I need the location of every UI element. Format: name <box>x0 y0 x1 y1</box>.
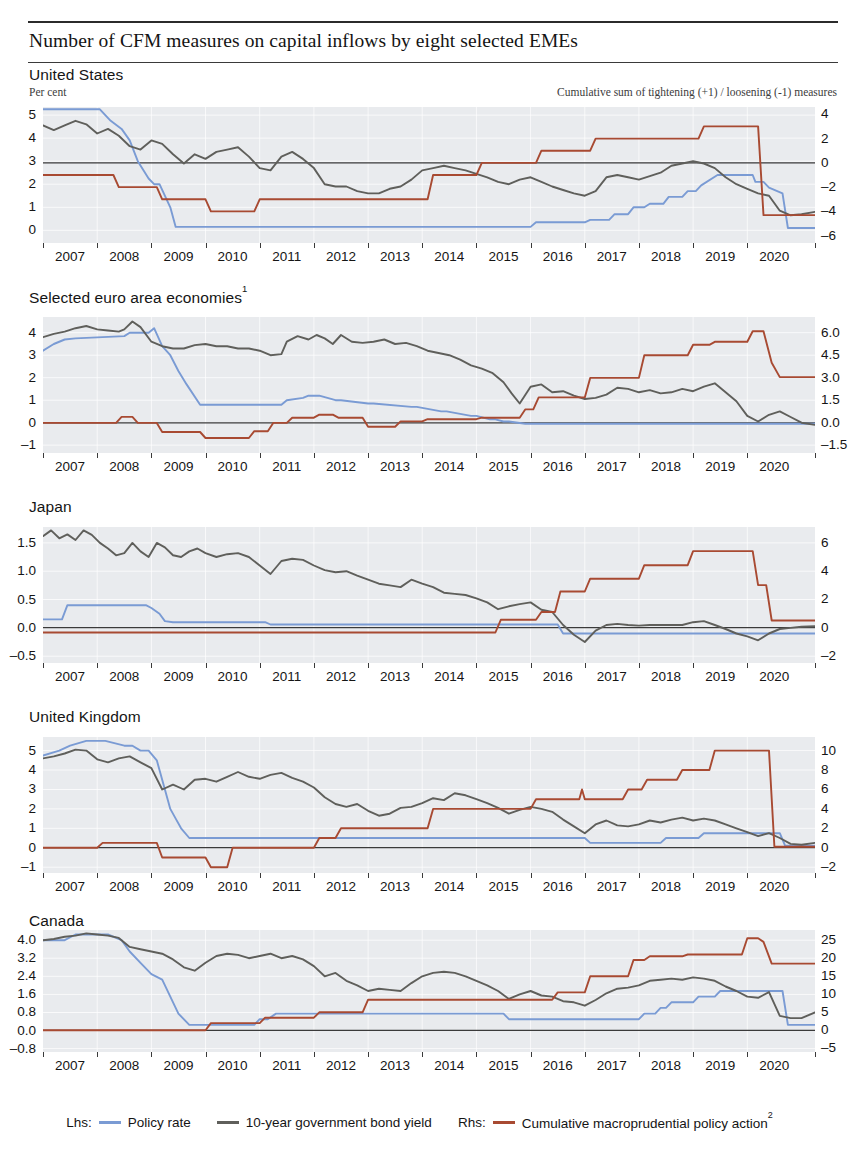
x-axis-tick-label: 2011 <box>264 880 310 894</box>
legend-swatch-policy-rate <box>99 1121 121 1124</box>
y-axis-left-tick-label: 1 <box>2 821 36 835</box>
x-axis-tick-label: 2020 <box>751 250 797 264</box>
x-axis-tick <box>585 453 586 458</box>
x-axis-tick <box>531 873 532 878</box>
x-axis-tick-label: 2015 <box>480 880 526 894</box>
y-axis-right-tick-label: 8 <box>821 763 859 777</box>
x-axis-tick-label: 2007 <box>47 460 93 474</box>
y-axis-right-tick-label: 6 <box>821 782 859 796</box>
y-axis-left-tick-label: 4 <box>2 131 36 145</box>
y-axis-right-tick-label: 6 <box>821 536 859 550</box>
x-axis-tick-label: 2019 <box>697 1059 743 1073</box>
x-axis-tick <box>531 1052 532 1057</box>
y-axis-left-tick-label: 2 <box>2 177 36 191</box>
x-axis-tick-label: 2017 <box>589 250 635 264</box>
x-axis-tick-label: 2014 <box>426 1059 472 1073</box>
x-axis-tick-label: 2020 <box>751 1059 797 1073</box>
y-axis-right-tick-label: 4.5 <box>821 348 859 362</box>
x-axis-tick <box>206 1052 207 1057</box>
x-axis-tick <box>206 873 207 878</box>
y-axis-left-tick-label: 1.0 <box>2 564 36 578</box>
x-axis-tick-label: 2014 <box>426 250 472 264</box>
x-axis-tick-label: 2012 <box>318 880 364 894</box>
y-axis-left-tick-label: 3 <box>2 782 36 796</box>
y-axis-left-tick-label: –1 <box>2 860 36 874</box>
figure-page: Number of CFM measures on capital inflow… <box>0 0 865 1169</box>
panel-title-text: Japan <box>29 498 72 515</box>
x-axis-tick <box>585 873 586 878</box>
plot-svg <box>43 930 815 1052</box>
x-axis-tick <box>151 453 152 458</box>
legend-lhs-label: Lhs: <box>66 1115 92 1130</box>
x-axis-tick-label: 2012 <box>318 670 364 684</box>
y-axis-left-tick-label: 0 <box>2 223 36 237</box>
x-axis-tick-label: 2020 <box>751 880 797 894</box>
y-axis-left-tick-label: 3 <box>2 348 36 362</box>
x-axis-tick-label: 2019 <box>697 670 743 684</box>
x-axis-tick <box>368 663 369 668</box>
panel-title-3: United Kingdom <box>29 708 141 726</box>
x-axis-tick-label: 2007 <box>47 670 93 684</box>
y-axis-right-tick-label: 2 <box>821 132 859 146</box>
x-axis-tick <box>206 243 207 248</box>
y-axis-right-tick-label: 0.0 <box>821 416 859 430</box>
x-axis-tick-label: 2009 <box>155 670 201 684</box>
x-axis-tick-label: 2008 <box>101 460 147 474</box>
y-axis-left-tick-label: –0.8 <box>2 1042 36 1056</box>
plot-svg <box>43 317 815 453</box>
x-axis-tick <box>151 1052 152 1057</box>
y-axis-right-tick-label: 2 <box>821 821 859 835</box>
panel-title-2: Japan <box>29 498 72 516</box>
x-axis-tick-label: 2013 <box>372 880 418 894</box>
panel-title-0: United States <box>29 66 123 84</box>
x-axis-tick <box>747 453 748 458</box>
x-axis-tick-label: 2007 <box>47 1059 93 1073</box>
x-axis-tick <box>97 873 98 878</box>
y-axis-right-tick-label: –2 <box>821 649 859 663</box>
x-axis-tick <box>693 243 694 248</box>
x-axis-tick-label: 2016 <box>535 250 581 264</box>
y-axis-left-tick-label: 1 <box>2 393 36 407</box>
series-line <box>43 126 815 215</box>
y-axis-right-tick-label: 4 <box>821 802 859 816</box>
x-axis-tick-label: 2015 <box>480 1059 526 1073</box>
plot-area-3 <box>43 737 815 873</box>
x-axis-tick-label: 2013 <box>372 670 418 684</box>
series-line <box>43 935 815 1025</box>
x-axis-tick <box>422 663 423 668</box>
chart-legend: Lhs: Policy rate 10-year government bond… <box>0 1114 865 1131</box>
y-axis-right-tick-label: 10 <box>821 987 859 1001</box>
x-axis-tick <box>314 243 315 248</box>
x-axis-tick <box>476 1052 477 1057</box>
x-axis-tick-label: 2012 <box>318 250 364 264</box>
x-axis-tick-label: 2017 <box>589 880 635 894</box>
y-axis-left-tick-label: 1.6 <box>2 987 36 1001</box>
right-axis-unit: Cumulative sum of tightening (+1) / loos… <box>557 86 837 98</box>
y-axis-left-tick-label: 4.0 <box>2 933 36 947</box>
x-axis-tick <box>43 873 44 878</box>
x-axis-tick <box>422 1052 423 1057</box>
y-axis-left-tick-label: 5 <box>2 744 36 758</box>
legend-text-macroprudential-main: Cumulative macroprudential policy action <box>522 1116 768 1131</box>
series-line <box>43 328 815 424</box>
x-axis-tick-label: 2011 <box>264 1059 310 1073</box>
y-axis-left-tick-label: 2 <box>2 802 36 816</box>
x-axis-tick-label: 2016 <box>535 670 581 684</box>
x-axis-tick <box>260 243 261 248</box>
x-axis-tick <box>368 243 369 248</box>
x-axis-tick <box>151 873 152 878</box>
x-axis-tick-end <box>815 663 816 668</box>
legend-group-lhs: Lhs: Policy rate 10-year government bond… <box>66 1115 458 1130</box>
y-axis-left-tick-label: 0.0 <box>2 1024 36 1038</box>
y-axis-left-tick-label: 3 <box>2 154 36 168</box>
series-line <box>43 605 815 633</box>
y-axis-right-tick-label: –2 <box>821 860 859 874</box>
x-axis-tick <box>693 453 694 458</box>
x-axis-tick <box>747 873 748 878</box>
panel-title-4: Canada <box>29 912 84 930</box>
y-axis-right-tick-label: –4 <box>821 204 859 218</box>
x-axis-tick <box>639 453 640 458</box>
y-axis-right-tick-label: 2 <box>821 592 859 606</box>
x-axis-tick <box>314 1052 315 1057</box>
x-axis-tick-label: 2010 <box>210 670 256 684</box>
